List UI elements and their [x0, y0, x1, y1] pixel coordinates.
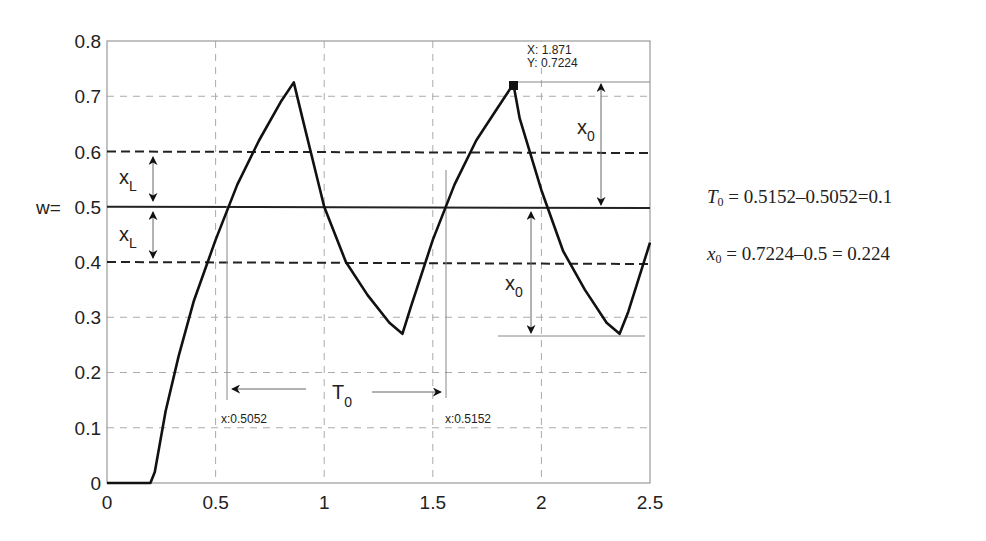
chart-plot: X: 1.871 Y: 0.7224 xL xL x0 x0 T0 x:0.50…: [0, 0, 986, 541]
w-equals-label: w=: [35, 197, 61, 218]
svg-text:0: 0: [90, 473, 101, 494]
svg-text:0.4: 0.4: [75, 252, 102, 273]
datatip-marker[interactable]: [509, 81, 518, 90]
svg-text:0: 0: [102, 492, 113, 513]
svg-text:2.5: 2.5: [637, 492, 663, 513]
t0-left-tip: x:0.5052: [221, 412, 267, 426]
datatip-y: Y: 0.7224: [527, 56, 578, 70]
t0-right-tip: x:0.5152: [445, 412, 491, 426]
equation-t0: T0 = 0.5152–0.5052=0.1: [707, 186, 892, 210]
svg-text:2: 2: [536, 492, 547, 513]
svg-text:0.1: 0.1: [75, 418, 101, 439]
datatip-x: X: 1.871: [527, 43, 572, 57]
x0-upper-label: x0: [577, 116, 595, 144]
svg-text:0.2: 0.2: [75, 362, 101, 383]
svg-text:1.5: 1.5: [420, 492, 446, 513]
svg-text:0.8: 0.8: [75, 31, 101, 52]
t0-label: T0: [332, 381, 352, 410]
xl-upper-label: xL: [119, 166, 137, 194]
response-curve: [107, 82, 650, 483]
equation-x0: x0 = 0.7224–0.5 = 0.224: [707, 243, 890, 267]
reference-line-0.5: [107, 207, 650, 208]
y-axis-ticks: 0 0.1 0.2 0.3 0.4 0.5 0.6 0.7 0.8: [75, 31, 102, 494]
svg-text:0.6: 0.6: [75, 142, 101, 163]
svg-text:0.3: 0.3: [75, 307, 101, 328]
xl-lower-label: xL: [119, 223, 137, 251]
svg-text:0.5: 0.5: [202, 492, 228, 513]
svg-text:0.5: 0.5: [75, 197, 101, 218]
svg-text:0.7: 0.7: [75, 86, 101, 107]
x-axis-ticks: 0 0.5 1 1.5 2 2.5: [102, 492, 664, 513]
reference-line-0.6: [107, 152, 650, 154]
svg-text:1: 1: [319, 492, 330, 513]
x0-lower-label: x0: [505, 272, 523, 300]
